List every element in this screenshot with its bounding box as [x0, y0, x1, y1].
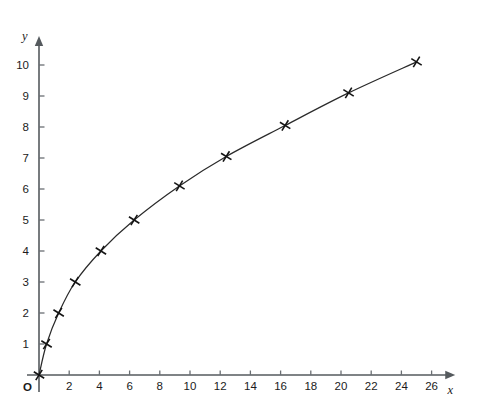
x-tick-label: 16 [274, 380, 287, 392]
marker-stroke [282, 120, 288, 130]
y-tick-label: 8 [23, 121, 29, 133]
marker-stroke [72, 277, 78, 287]
y-axis-ticks: 12345678910 [16, 59, 44, 350]
marker-stroke [131, 215, 137, 225]
x-tick-label: 14 [244, 380, 257, 392]
x-tick-label: 10 [184, 380, 197, 392]
x-tick-label: 6 [126, 380, 132, 392]
marker-stroke [98, 246, 104, 256]
data-curve-group [39, 62, 417, 375]
x-tick-label: 18 [304, 380, 317, 392]
y-tick-label: 6 [23, 183, 29, 195]
data-curve-path [39, 62, 417, 375]
data-markers-group [34, 57, 422, 381]
x-tick-label: 8 [157, 380, 163, 392]
origin-label: O [23, 381, 32, 393]
data-point-marker [280, 120, 290, 130]
data-point-marker [411, 57, 421, 67]
x-tick-label: 24 [395, 380, 408, 392]
x-tick-label: 26 [425, 380, 438, 392]
y-tick-label: 7 [23, 152, 29, 164]
chart-canvas: 2468101214161820222426 12345678910 x y O [0, 0, 492, 416]
data-point-marker [343, 88, 353, 98]
x-axis-label: x [446, 383, 453, 397]
y-tick-label: 4 [23, 245, 30, 257]
x-axis-arrow-icon [445, 371, 455, 379]
y-tick-label: 1 [23, 338, 29, 350]
marker-stroke [345, 88, 351, 98]
y-tick-label: 10 [16, 59, 29, 71]
x-tick-label: 20 [335, 380, 348, 392]
y-axis-arrow-icon [35, 36, 43, 46]
marker-stroke [413, 57, 419, 67]
y-tick-label: 9 [23, 90, 29, 102]
x-tick-label: 2 [66, 380, 72, 392]
x-tick-label: 12 [214, 380, 227, 392]
x-axis-ticks: 2468101214161820222426 [66, 371, 438, 393]
x-tick-label: 22 [365, 380, 378, 392]
y-tick-label: 5 [23, 214, 29, 226]
data-point-marker [70, 277, 80, 287]
marker-stroke [55, 308, 61, 318]
data-point-marker [221, 151, 231, 161]
marker-stroke [176, 181, 182, 191]
chart-container: 2468101214161820222426 12345678910 x y O [0, 0, 492, 416]
y-tick-label: 2 [23, 307, 29, 319]
y-axis-label: y [20, 29, 28, 43]
x-tick-label: 4 [96, 380, 103, 392]
data-point-marker [174, 181, 184, 191]
axes-group [27, 36, 455, 392]
data-point-marker [53, 308, 63, 318]
y-tick-label: 3 [23, 276, 29, 288]
marker-stroke [223, 151, 229, 161]
